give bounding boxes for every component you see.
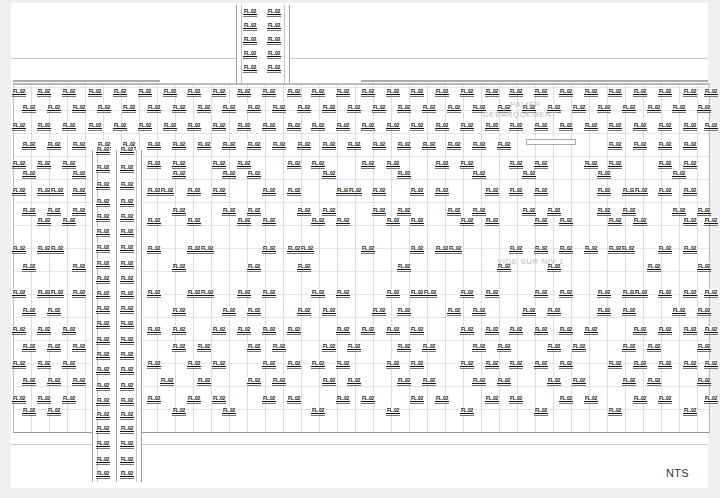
finish-tag: FL.02 <box>72 104 86 111</box>
finish-tag: FL.02 <box>47 104 61 111</box>
finish-tag: FL.02 <box>243 64 257 71</box>
finish-tag: FL.02 <box>47 207 61 214</box>
finish-tag: FL.02 <box>22 141 36 148</box>
finish-tag: FL.02 <box>72 289 86 296</box>
finish-tag: FL.02 <box>460 88 474 95</box>
finish-tag: FL.02 <box>559 245 573 252</box>
finish-tag: FL.02 <box>96 260 110 267</box>
finish-tag: FL.02 <box>322 141 336 148</box>
finish-tag: FL.02 <box>658 88 672 95</box>
finish-tag: FL.02 <box>336 88 350 95</box>
finish-tag: FL.02 <box>147 395 161 402</box>
finish-tag: FL.02 <box>72 141 86 148</box>
finish-tag: FL.02 <box>172 343 186 350</box>
finish-tag: FL.02 <box>547 343 561 350</box>
finish-tag: FL.02 <box>37 88 51 95</box>
finish-tag: FL.02 <box>584 160 598 167</box>
finish-tag: FL.02 <box>447 207 461 214</box>
finish-tag: FL.02 <box>435 122 449 129</box>
finish-tag: FL.02 <box>422 343 436 350</box>
finish-tag: FL.02 <box>658 187 672 194</box>
finish-tag: FL.02 <box>534 360 548 367</box>
finish-tag: FL.02 <box>447 141 461 148</box>
finish-tag: FL.02 <box>96 198 110 205</box>
finish-tag: FL.02 <box>237 88 251 95</box>
finish-tag: FL.02 <box>422 141 436 148</box>
finish-tag: FL.02 <box>187 395 201 402</box>
finish-tag: FL.02 <box>300 245 314 252</box>
finish-tag: FL.02 <box>197 377 211 384</box>
finish-tag: FL.02 <box>37 217 51 224</box>
finish-tag: FL.02 <box>683 122 697 129</box>
finish-tag: FL.02 <box>584 88 598 95</box>
finish-tag: FL.02 <box>448 245 462 252</box>
finish-tag: FL.02 <box>287 326 301 333</box>
finish-tag: FL.02 <box>311 289 325 296</box>
finish-tag: FL.02 <box>410 187 424 194</box>
finish-tag: FL.02 <box>597 104 611 111</box>
finish-tag: FL.02 <box>386 217 400 224</box>
finish-tag: FL.02 <box>386 88 400 95</box>
finish-tag: FL.02 <box>704 122 718 129</box>
finish-tag: FL.02 <box>397 207 411 214</box>
finish-tag: FL.02 <box>534 160 548 167</box>
finish-tag: FL.02 <box>120 260 134 267</box>
finish-tag: FL.02 <box>96 336 110 343</box>
finish-tag: FL.02 <box>12 88 26 95</box>
finish-tag: FL.02 <box>147 217 161 224</box>
finish-tag: FL.02 <box>37 395 51 402</box>
finish-tag: FL.02 <box>12 245 26 252</box>
finish-tag: FL.02 <box>410 245 424 252</box>
finish-tag: FL.02 <box>96 244 110 251</box>
finish-tag: FL.02 <box>72 377 86 384</box>
finish-tag: FL.02 <box>410 122 424 129</box>
finish-tag: FL.02 <box>37 160 51 167</box>
finish-tag: FL.02 <box>697 307 711 314</box>
finish-tag: FL.02 <box>243 36 257 43</box>
finish-tag: FL.02 <box>120 146 134 153</box>
finish-tag: FL.02 <box>47 307 61 314</box>
finish-tag: FL.02 <box>410 289 424 296</box>
finish-tag: FL.02 <box>287 160 301 167</box>
finish-tag: FL.02 <box>212 122 226 129</box>
finish-tag: FL.02 <box>658 395 672 402</box>
finish-tag: FL.02 <box>509 187 523 194</box>
finish-tag: FL.02 <box>534 187 548 194</box>
landing-label: PALIER <box>510 100 541 109</box>
finish-tag: FL.02 <box>172 160 186 167</box>
finish-tag: FL.02 <box>212 160 226 167</box>
finish-tag: FL.02 <box>704 395 718 402</box>
finish-tag: FL.02 <box>460 160 474 167</box>
finish-tag: FL.02 <box>683 160 697 167</box>
finish-tag: FL.02 <box>647 343 661 350</box>
finish-tag: FL.02 <box>509 245 523 252</box>
finish-tag: FL.02 <box>37 245 51 252</box>
finish-tag: FL.02 <box>597 307 611 314</box>
finish-tag: FL.02 <box>163 122 177 129</box>
finish-tag: FL.02 <box>634 289 648 296</box>
finish-tag: FL.02 <box>534 122 548 129</box>
finish-tag: FL.02 <box>597 289 611 296</box>
finish-tag: FL.02 <box>172 104 186 111</box>
finish-tag: FL.02 <box>72 187 86 194</box>
finish-tag: FL.02 <box>322 377 336 384</box>
finish-tag: FL.02 <box>584 326 598 333</box>
finish-tag: FL.02 <box>247 263 261 270</box>
finish-tag: FL.02 <box>72 170 86 177</box>
finish-tag: FL.02 <box>658 141 672 148</box>
finish-tag: FL.02 <box>243 8 257 15</box>
finish-tag: FL.02 <box>163 88 177 95</box>
finish-tag: FL.02 <box>138 88 152 95</box>
finish-tag: FL.02 <box>147 245 161 252</box>
finish-tag: FL.02 <box>347 377 361 384</box>
finish-tag: FL.02 <box>187 360 201 367</box>
finish-tag: FL.02 <box>88 122 102 129</box>
finish-tag: FL.02 <box>622 104 636 111</box>
finish-tag: FL.02 <box>509 88 523 95</box>
finish-tag: FL.02 <box>658 245 672 252</box>
finish-tag: FL.02 <box>247 343 261 350</box>
finish-tag: FL.02 <box>96 366 110 373</box>
finish-tag: FL.02 <box>397 307 411 314</box>
finish-tag: FL.02 <box>397 141 411 148</box>
finish-tag: FL.02 <box>37 187 51 194</box>
